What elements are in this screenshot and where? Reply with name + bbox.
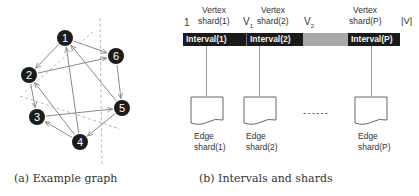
edge-shard-label-2: Edge shard(2) bbox=[246, 131, 278, 153]
interval-2: Interval(2) bbox=[247, 33, 303, 46]
edge-shard-label-p: Edge shard(P) bbox=[358, 131, 391, 153]
graph-nodes: 123456 bbox=[21, 30, 130, 150]
interval-p: Interval(P) bbox=[348, 33, 400, 46]
interval-1: Interval(1) bbox=[183, 33, 246, 46]
graph-edges bbox=[31, 41, 121, 137]
example-graph-panel: 123456 (a) Example graph bbox=[0, 0, 150, 196]
caption-a: (a) Example graph bbox=[14, 172, 117, 185]
ellipsis-dashes: ------ bbox=[303, 107, 329, 118]
connector-line-p bbox=[371, 46, 372, 96]
edge-shard-document-icon-2 bbox=[243, 96, 279, 126]
svg-text:4: 4 bbox=[77, 136, 83, 148]
caption-b: (b) Intervals and shards bbox=[199, 172, 333, 185]
connector-line-2 bbox=[259, 46, 260, 96]
vertex-shard-label-p: Vertex shard(P) bbox=[349, 5, 382, 27]
graph-node-1: 1 bbox=[57, 30, 73, 46]
edge-shard-document-icon-p bbox=[354, 96, 390, 126]
intervals-shards-panel: 1 V1 V2 |V| Vertex shard(1) Vertex shard… bbox=[150, 0, 419, 196]
svg-text:6: 6 bbox=[113, 50, 119, 62]
svg-text:1: 1 bbox=[62, 32, 68, 44]
partition-line-vertical bbox=[100, 18, 102, 165]
example-graph: 123456 bbox=[0, 0, 150, 196]
graph-node-3: 3 bbox=[29, 109, 45, 125]
edge-6-to-5 bbox=[117, 65, 121, 99]
boundary-label-v1: V1 bbox=[243, 16, 253, 32]
edge-2-to-3 bbox=[31, 84, 36, 108]
graph-node-6: 6 bbox=[108, 48, 124, 64]
graph-node-2: 2 bbox=[21, 67, 37, 83]
edge-1-to-6 bbox=[73, 41, 107, 53]
edge-shard-document-icon-1 bbox=[190, 96, 226, 126]
edge-shard-label-1: Edge shard(1) bbox=[194, 131, 226, 153]
vertex-shard-label-2: Vertex shard(2) bbox=[257, 5, 289, 27]
edge-4-to-3 bbox=[45, 122, 72, 138]
connector-line-1 bbox=[206, 46, 207, 96]
boundary-label-end: |V| bbox=[401, 15, 412, 26]
edge-2-to-6 bbox=[38, 58, 107, 73]
graph-node-5: 5 bbox=[114, 100, 130, 116]
svg-text:5: 5 bbox=[119, 102, 125, 114]
graph-node-4: 4 bbox=[72, 134, 88, 150]
edge-4-to-1 bbox=[66, 47, 78, 133]
svg-text:2: 2 bbox=[26, 69, 32, 81]
boundary-label-v2: V2 bbox=[304, 16, 314, 32]
boundary-label-start: 1 bbox=[184, 17, 190, 28]
interval-gap bbox=[303, 33, 348, 46]
svg-text:3: 3 bbox=[34, 111, 40, 123]
vertex-shard-label-1: Vertex shard(1) bbox=[198, 5, 230, 27]
